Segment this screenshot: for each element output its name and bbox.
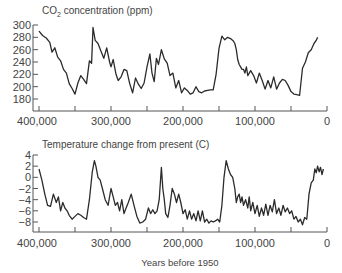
x-tick-label: 200,000 [163, 115, 203, 127]
chart-figure: 300280260240220200180400,000300,000200,0… [0, 0, 342, 273]
x-tick-label: 400,000 [17, 237, 57, 249]
x-tick-label: 0 [324, 115, 330, 127]
x-tick-label: 300,000 [91, 115, 131, 127]
x-tick-label: 100,000 [235, 115, 275, 127]
x-tick-label: 400,000 [17, 115, 57, 127]
y-tick-label: 180 [13, 93, 31, 105]
co2-chart-title: CO2 concentration (ppm) [42, 5, 153, 18]
temperature-panel: 420−2−4−6−8400,000300,000200,000100,0000… [17, 139, 330, 249]
x-tick-label: 100,000 [235, 237, 275, 249]
co2-series-line [39, 28, 318, 96]
y-tick-label: 280 [13, 31, 31, 43]
co2-panel: 300280260240220200180400,000300,000200,0… [13, 5, 330, 127]
y-tick-label: −8 [18, 216, 31, 228]
x-tick-label: 200,000 [163, 237, 203, 249]
y-tick-label: 200 [13, 81, 31, 93]
y-tick-label: 240 [13, 56, 31, 68]
x-tick-label: 300,000 [91, 237, 131, 249]
temperature-chart-title: Temperature change from present (C) [42, 139, 209, 150]
x-axis-title: Years before 1950 [141, 257, 218, 268]
x-tick-label: 0 [324, 237, 330, 249]
y-tick-label: 260 [13, 44, 31, 56]
y-tick-label: 300 [13, 19, 31, 31]
y-tick-label: 220 [13, 68, 31, 80]
temperature-series-line [39, 161, 323, 225]
